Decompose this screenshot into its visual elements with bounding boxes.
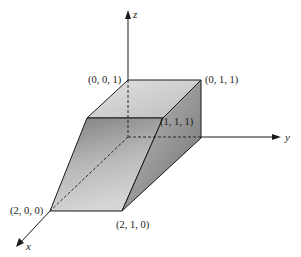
z-axis-arrow-icon [125,10,131,19]
vertex-label-011: (0, 1, 1) [205,74,239,86]
vertex-label-210: (2, 1, 0) [116,219,150,231]
y-axis-label: y [284,131,290,143]
solid-diagram: z y x (0, 0, 1) (0, 1, 1) (1, 1, 1) (2, … [0,0,301,257]
vertex-label-001: (0, 0, 1) [88,74,122,86]
diagram-stage: z y x (0, 0, 1) (0, 1, 1) (1, 1, 1) (2, … [0,0,301,257]
x-axis-label: x [25,240,31,252]
z-axis-label: z [132,8,138,20]
y-axis [201,134,281,140]
vertex-label-200: (2, 0, 0) [10,205,44,217]
x-axis [16,211,50,247]
vertex-label-111: (1, 1, 1) [160,116,194,128]
y-axis-arrow-icon [272,134,281,140]
